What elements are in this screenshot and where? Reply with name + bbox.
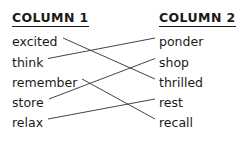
connection-lines xyxy=(0,0,250,142)
matching-exercise-diagram: COLUMN 1 COLUMN 2 excited think remember… xyxy=(0,0,250,142)
connection-line[interactable] xyxy=(82,79,155,119)
connection-line[interactable] xyxy=(49,59,155,100)
connection-line[interactable] xyxy=(48,99,155,119)
connection-line[interactable] xyxy=(63,38,155,79)
